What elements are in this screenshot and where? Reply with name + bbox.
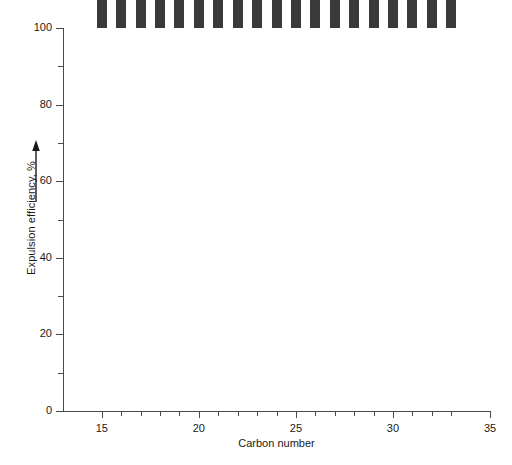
x-tick-label: 20 (193, 422, 205, 434)
y-tick-major: 60 (56, 181, 63, 182)
y-tick-label: 20 (40, 327, 52, 339)
x-tick-minor (354, 411, 355, 416)
y-tick-label: 100 (34, 21, 52, 33)
y-tick-minor (58, 373, 63, 374)
x-tick-minor (121, 411, 122, 416)
y-tick-major: 40 (56, 258, 63, 259)
x-axis-label: Carbon number (63, 437, 490, 449)
y-tick-label: 40 (40, 251, 52, 263)
x-tick-minor (451, 411, 452, 416)
bar (174, 0, 184, 28)
bar (155, 0, 165, 28)
x-tick-label: 15 (96, 422, 108, 434)
x-tick-major: 15 (102, 411, 103, 418)
x-tick-minor (179, 411, 180, 416)
plot-area: 020406080100 1520253035 (63, 28, 490, 411)
x-tick-minor (141, 411, 142, 416)
x-tick-label: 35 (484, 422, 496, 434)
bar (233, 0, 243, 28)
y-tick-label: 80 (40, 98, 52, 110)
y-tick-label: 60 (40, 174, 52, 186)
x-tick-minor (277, 411, 278, 416)
up-arrow-icon (31, 140, 41, 202)
bar (369, 0, 379, 28)
bar (194, 0, 204, 28)
chart-figure: Expulsion efficiency, % 020406080100 152… (0, 0, 512, 465)
y-tick-major: 100 (56, 28, 63, 29)
x-tick-major: 25 (296, 411, 297, 418)
bar (427, 0, 437, 28)
x-tick-minor (432, 411, 433, 416)
bar (272, 0, 282, 28)
x-tick-minor (257, 411, 258, 416)
x-tick-major: 35 (490, 411, 491, 418)
bar (446, 0, 456, 28)
y-tick-major: 0 (56, 411, 63, 412)
y-tick-minor (58, 143, 63, 144)
bar (330, 0, 340, 28)
y-axis-label-group: Expulsion efficiency, % (0, 0, 56, 430)
bar (407, 0, 417, 28)
x-tick-label: 30 (387, 422, 399, 434)
y-axis-line (63, 28, 64, 412)
y-tick-minor (58, 66, 63, 67)
y-tick-major: 20 (56, 334, 63, 335)
y-tick-major: 80 (56, 105, 63, 106)
x-tick-minor (218, 411, 219, 416)
bar (388, 0, 398, 28)
x-tick-minor (374, 411, 375, 416)
x-tick-major: 30 (393, 411, 394, 418)
x-tick-major: 20 (199, 411, 200, 418)
bar (136, 0, 146, 28)
bar (213, 0, 223, 28)
x-tick-minor (315, 411, 316, 416)
bar (349, 0, 359, 28)
y-tick-minor (58, 220, 63, 221)
y-axis-label: Expulsion efficiency, % (25, 68, 37, 368)
bar (252, 0, 262, 28)
x-tick-minor (335, 411, 336, 416)
x-tick-minor (412, 411, 413, 416)
x-tick-label: 25 (290, 422, 302, 434)
y-tick-minor (58, 296, 63, 297)
x-tick-minor (238, 411, 239, 416)
bar (291, 0, 301, 28)
bar (97, 0, 107, 28)
bar (116, 0, 126, 28)
bar (310, 0, 320, 28)
y-tick-label: 0 (46, 404, 52, 416)
x-tick-minor (160, 411, 161, 416)
